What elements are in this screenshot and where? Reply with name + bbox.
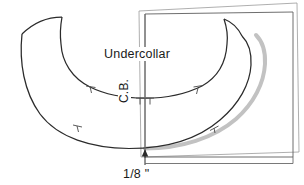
notch-lower-left <box>73 125 82 132</box>
label-undercollar: Undercollar <box>102 47 172 61</box>
diagram-canvas: Undercollar C.B. 1/8 " <box>0 0 304 185</box>
label-measurement-eighth-inch: 1/8 " <box>123 167 149 181</box>
paper-frame-front <box>145 12 293 157</box>
undercollar-pattern-drawing <box>0 0 304 185</box>
label-center-back: C.B. <box>118 78 131 104</box>
